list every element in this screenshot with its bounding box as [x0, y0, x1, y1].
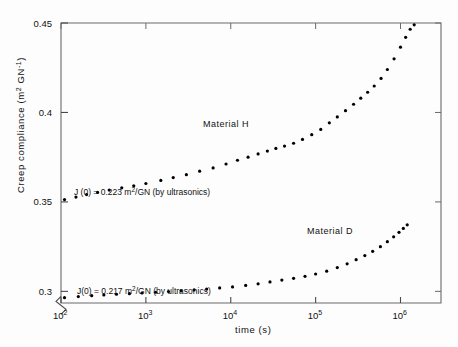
data-point	[159, 179, 162, 182]
data-point	[344, 109, 347, 112]
material-d-label: Material D	[307, 226, 353, 236]
data-point	[366, 91, 369, 94]
data-point	[379, 245, 382, 248]
data-point	[280, 279, 283, 282]
data-point	[336, 115, 339, 118]
data-point	[244, 284, 247, 287]
data-point	[373, 84, 376, 87]
data-point	[413, 23, 416, 26]
x-tick-label-3: 103	[138, 309, 153, 321]
data-point	[404, 36, 407, 39]
j0-material-d: J(0) = 0.217 m2/GN (by ultrasonics)	[77, 285, 211, 296]
data-point	[392, 57, 395, 60]
data-point	[268, 280, 271, 283]
data-point	[257, 152, 260, 155]
data-point	[292, 142, 295, 145]
x-tick-label-4: 104	[223, 309, 238, 321]
data-point	[352, 103, 355, 106]
data-point	[310, 133, 313, 136]
data-point	[392, 235, 395, 238]
data-point	[355, 258, 358, 261]
data-point	[346, 262, 349, 265]
y-tick-label-0.35: 0.35	[34, 196, 53, 207]
data-point	[257, 282, 260, 285]
series-material-h	[63, 23, 416, 201]
data-point	[399, 46, 402, 49]
data-point	[371, 250, 374, 253]
data-point	[63, 198, 66, 201]
y-tick-label-0.45: 0.45	[34, 18, 53, 29]
data-point	[224, 162, 227, 165]
data-point	[246, 156, 249, 159]
data-point	[379, 77, 382, 80]
y-axis-label: Creep compliance (m2 GN-1)	[15, 57, 26, 193]
data-point	[198, 170, 201, 173]
material-h-label: Material H	[203, 119, 249, 129]
creep-compliance-chart: 1021031041051060.30.350.40.45time (s)Cre…	[0, 0, 458, 347]
data-point	[409, 28, 412, 31]
x-tick-label-6: 106	[393, 309, 408, 321]
data-point	[292, 277, 295, 280]
y-tick-label-0.4: 0.4	[39, 107, 52, 118]
data-point	[274, 147, 277, 150]
data-point	[185, 173, 188, 176]
data-point	[363, 254, 366, 257]
data-point	[402, 227, 405, 230]
data-point	[397, 231, 400, 234]
creep-compliance-figure: 1021031041051060.30.350.40.45time (s)Cre…	[0, 0, 458, 347]
j0-material-h: J (0) = 0.223 m2/GN (by ultrasonics)	[74, 186, 210, 197]
data-point	[319, 128, 322, 131]
data-point	[314, 272, 317, 275]
data-point	[283, 144, 286, 147]
y-tick-label-0.3: 0.3	[39, 286, 52, 297]
data-point	[336, 266, 339, 269]
data-point	[359, 97, 362, 100]
data-point	[301, 138, 304, 141]
data-point	[144, 182, 147, 185]
x-tick-label-5: 105	[308, 309, 323, 321]
data-point	[386, 68, 389, 71]
data-point	[172, 176, 175, 179]
x-axis-label: time (s)	[235, 324, 271, 335]
data-point	[386, 240, 389, 243]
data-point	[325, 270, 328, 273]
data-point	[406, 223, 409, 226]
data-point	[212, 166, 215, 169]
data-point	[231, 285, 234, 288]
plot-frame	[61, 23, 441, 303]
data-point	[236, 159, 239, 162]
data-point	[218, 286, 221, 289]
data-point	[63, 296, 66, 299]
data-point	[266, 150, 269, 153]
data-point	[328, 121, 331, 124]
x-tick-label-2: 102	[53, 309, 68, 321]
data-point	[303, 275, 306, 278]
